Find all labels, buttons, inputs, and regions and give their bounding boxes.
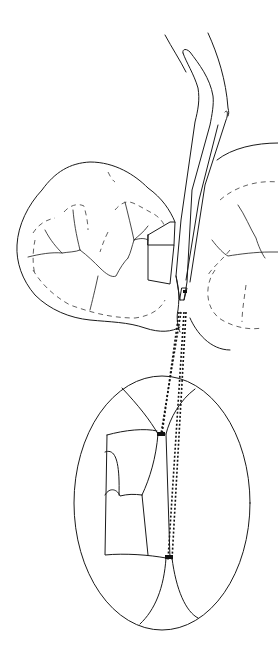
curved-dental-instrument <box>165 33 229 332</box>
magnified-inset-ellipse <box>74 376 250 630</box>
contact-mark-top <box>157 432 165 436</box>
dental-illustration <box>0 0 278 646</box>
left-molar-outline <box>17 162 180 331</box>
restoration-block <box>148 222 175 284</box>
contact-mark-bottom <box>165 555 173 559</box>
right-molar-outline <box>190 143 278 350</box>
